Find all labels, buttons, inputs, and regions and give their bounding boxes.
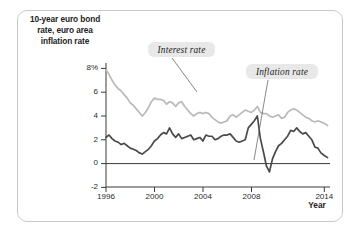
y-axis-tick-label-6: 6 bbox=[72, 87, 98, 96]
y-axis-tick-label-8: 8% bbox=[72, 63, 98, 72]
x-axis-title: Year bbox=[300, 200, 334, 210]
y-axis-tick-label-2: 2 bbox=[72, 135, 98, 144]
y-axis-tick-label-neg2: -2 bbox=[72, 182, 98, 191]
y-axis-tick-label-4: 4 bbox=[72, 111, 98, 120]
interest-leader-line bbox=[172, 58, 197, 92]
interest-rate-callout: Interest rate bbox=[148, 42, 215, 57]
y-axis-ticks bbox=[101, 68, 106, 187]
axis-lines bbox=[106, 63, 330, 187]
x-axis-tick-label-1996: 1996 bbox=[89, 192, 123, 201]
inflation-leader-line bbox=[254, 80, 268, 160]
inflation-rate-callout: Inflation rate bbox=[246, 64, 318, 79]
data-series bbox=[106, 70, 328, 172]
x-axis-tick-label-2008: 2008 bbox=[235, 192, 269, 201]
x-axis-tick-label-2004: 2004 bbox=[186, 192, 220, 201]
x-axis-tick-label-2000: 2000 bbox=[138, 192, 172, 201]
figure-container: 10-year euro bond rate, euro area inflat… bbox=[0, 0, 359, 237]
y-axis-tick-label-0: 0 bbox=[72, 158, 98, 167]
